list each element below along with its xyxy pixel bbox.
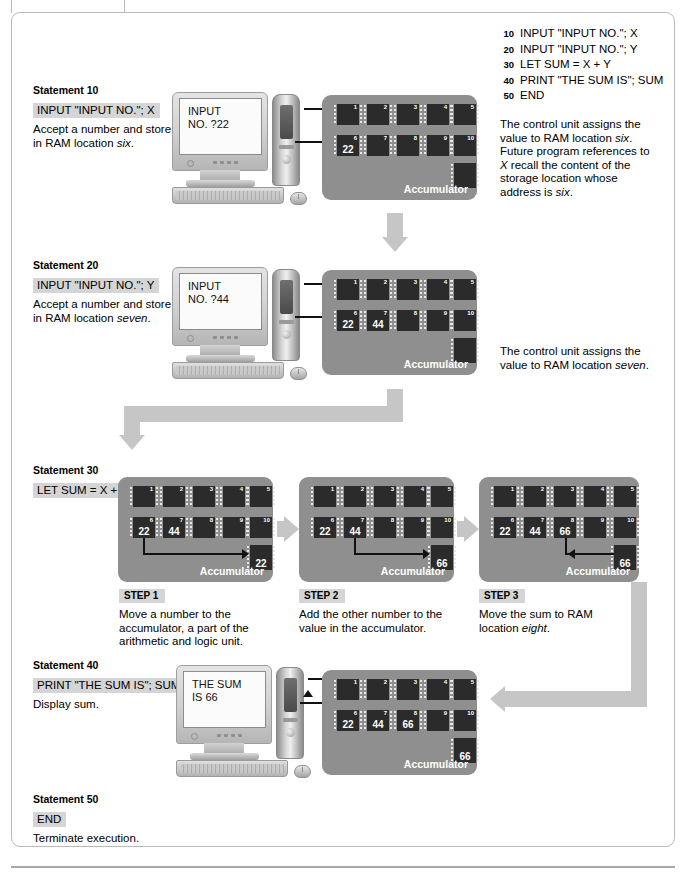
screen-line-1: INPUT [188,280,261,293]
monitor-button-icon[interactable] [231,734,235,737]
ram-chip: 10 [454,710,476,731]
ram-chip: 622 [314,517,336,538]
ram-chip: 9 [223,517,245,538]
power-icon[interactable] [187,160,194,167]
power-button-icon[interactable] [282,330,291,339]
monitor-button-icon[interactable] [217,734,221,737]
accumulator-label: Accumulator [381,565,445,577]
statement-50-desc: Terminate execution. [33,832,185,846]
transfer-wire [354,553,425,555]
keyboard[interactable] [172,362,284,379]
transfer-wire [143,553,244,555]
statement-40-code: PRINT "THE SUM IS"; SUM [33,678,185,694]
note-emphasis: six [556,186,570,198]
ram-chip: 1 [314,486,336,507]
monitor-button-icon[interactable] [213,161,217,164]
monitor-button-icon[interactable] [224,734,228,737]
line-number: 40 [497,75,514,86]
monitor-chin [179,332,262,343]
accumulator-label: Accumulator [566,565,630,577]
monitor: INPUT NO. ?44 [172,267,268,346]
power-icon[interactable] [187,335,194,342]
program-line: 40 PRINT "THE SUM IS"; SUM [497,74,672,86]
flow-arrow-shaft [505,691,647,707]
computer-statement-40: THE SUM IS 66 [176,665,314,783]
ram-chip: 3 [374,486,396,507]
mouse[interactable] [290,367,307,380]
program-line: 10 INPUT "INPUT NO."; X [497,27,672,39]
monitor-button-icon[interactable] [238,734,242,737]
monitor-button-icon[interactable] [220,336,224,339]
step-3-caption: STEP 3 Move the sum to RAM location eigh… [479,585,629,635]
mouse[interactable] [294,765,311,778]
flow-arrow-head-icon [490,686,505,712]
desc-text: Accept a number and store it in RAM loca… [33,298,180,324]
ram-chip: 866 [554,517,576,538]
monitor-chin [183,730,266,741]
ram-chip: 8 [374,517,396,538]
monitor-button-icon[interactable] [234,161,238,164]
statement-10-title: Statement 10 [33,84,185,96]
ram-chip: 5 [614,486,636,507]
step-2-caption: STEP 2 Add the other number to the value… [299,585,449,635]
drive-bay [279,145,294,149]
flow-arrow-shaft [277,521,285,537]
ram-chip: 2 [367,679,389,700]
screen-line-2: NO. ?44 [188,293,261,306]
step-1-desc: Move a number to the accumulator, a part… [119,608,269,649]
ram-chip: 2 [163,486,185,507]
power-button-icon[interactable] [282,155,291,164]
ram-chip: 10 [454,135,476,156]
ram-chip: 2 [344,486,366,507]
transfer-arrow-icon [568,549,575,559]
monitor-button-icon[interactable] [227,161,231,164]
computer-tower [272,94,300,186]
ram-chip: 744 [344,517,366,538]
keyboard-keys [180,764,284,773]
keyboard[interactable] [172,187,284,204]
desc-tail: . [147,312,150,324]
power-icon[interactable] [191,733,198,740]
ram-chip: 1 [133,486,155,507]
keyboard-keys [176,191,280,200]
ram-chip: 4 [427,279,449,300]
ram-chip: 9 [427,310,449,331]
drive-slot [284,678,297,712]
line-number: 50 [497,90,514,101]
step-3-desc: Move the sum to RAM location eight. [479,608,629,635]
transfer-arrow-icon [423,549,430,559]
ram-chip: 744 [367,710,389,731]
screen-line-1: INPUT [188,105,261,118]
monitor-button-icon[interactable] [234,336,238,339]
mouse[interactable] [290,192,307,205]
ram-chip: 10 [250,517,272,538]
statement-30-title: Statement 30 [33,464,185,476]
ram-chip: 744 [367,310,389,331]
ram-chip: 622 [133,517,155,538]
monitor-button-icon[interactable] [213,336,217,339]
monitor: THE SUM IS 66 [176,665,272,744]
drive-bay [283,718,298,722]
ram-chip: 4 [427,104,449,125]
ram-chip: 744 [524,517,546,538]
ram-chip: 1 [337,104,359,125]
ram-chip: 10 [431,517,453,538]
drive-bay [279,320,294,324]
ram-chip: 8 [397,310,419,331]
flow-arrow-shaft [387,389,403,407]
monitor-button-icon[interactable] [220,161,224,164]
flow-arrow-shaft [457,521,465,537]
ram-chip: 5 [250,486,272,507]
flow-arrow-shaft [387,213,403,238]
ram-chip: 5 [454,104,476,125]
step-3-title: STEP 3 [479,589,525,604]
keyboard[interactable] [176,760,288,777]
statement-40-desc: Display sum. [33,698,185,712]
statement-50-code: END [33,812,66,828]
accumulator-label: Accumulator [404,758,468,770]
ram-chip: 9 [427,710,449,731]
monitor-button-icon[interactable] [227,336,231,339]
monitor-base [186,180,255,187]
step-1-caption: STEP 1 Move a number to the accumulator,… [119,585,269,649]
power-button-icon[interactable] [286,728,295,737]
